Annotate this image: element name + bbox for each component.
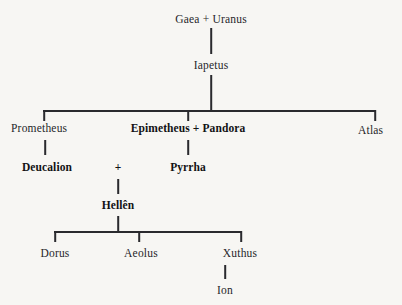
- node-hellen: Hellên: [102, 199, 135, 212]
- node-gaea-uranus: Gaea + Uranus: [175, 13, 247, 26]
- genealogy-chart: Gaea + Uranus Iapetus Prometheus Epimeth…: [0, 0, 402, 305]
- connector-bar-to-prometheus: [43, 110, 45, 121]
- connector-epimetheus-to-pyrrha: [187, 140, 189, 155]
- sibling-bar-hellen-children: [54, 231, 242, 233]
- node-epimetheus-pandora: Epimetheus + Pandora: [131, 122, 246, 135]
- connector-prometheus-to-deucalion: [44, 140, 46, 155]
- node-prometheus: Prometheus: [11, 122, 67, 135]
- connector-bar-to-epimetheus: [187, 110, 189, 121]
- connector-gaea-to-iapetus: [210, 28, 212, 54]
- connector-iapetus-to-siblings: [210, 75, 212, 111]
- node-aeolus: Aeolus: [124, 247, 158, 260]
- connector-bar-to-dorus: [54, 231, 56, 242]
- node-marriage-plus: +: [115, 161, 122, 174]
- connector-deucalion-pyrrha-to-hellen: [117, 179, 119, 194]
- connector-bar-to-aeolus: [138, 231, 140, 242]
- connector-bar-to-xuthus: [240, 231, 242, 242]
- node-xuthus: Xuthus: [223, 247, 257, 260]
- node-pyrrha: Pyrrha: [170, 161, 206, 174]
- node-atlas: Atlas: [358, 124, 383, 137]
- connector-bar-to-atlas: [374, 110, 376, 121]
- node-ion: Ion: [217, 284, 233, 297]
- node-deucalion: Deucalion: [22, 161, 72, 174]
- connector-hellen-to-siblings: [117, 216, 119, 232]
- sibling-bar-iapetus-children: [43, 110, 376, 112]
- connector-xuthus-to-ion: [224, 265, 226, 279]
- node-iapetus: Iapetus: [194, 59, 229, 72]
- node-dorus: Dorus: [40, 247, 69, 260]
